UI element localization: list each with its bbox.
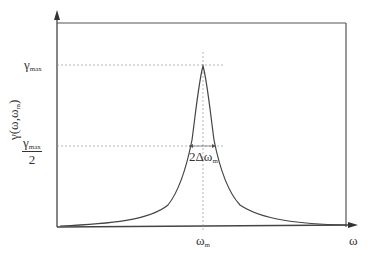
ylabel-text: γ(ω,ω [6, 110, 21, 140]
x-axis-arrow-icon [348, 222, 358, 228]
width-text: 2Δω [189, 149, 212, 164]
x-axis [57, 225, 352, 227]
y-axis-arrow-icon [54, 10, 60, 20]
peak-x-subscript: m [205, 241, 210, 249]
peak-x-symbol: ω [196, 233, 205, 248]
ymax-label: γmax [24, 58, 42, 73]
half-max-numerator: γmax [22, 135, 42, 152]
half-num-subscript: max [29, 143, 41, 151]
width-label: 2Δωm [189, 150, 218, 165]
resonance-diagram [0, 0, 375, 258]
ymax-subscript: max [30, 65, 42, 73]
peak-x-label: ωm [196, 234, 210, 249]
ylabel-close: ) [6, 100, 21, 104]
half-max-label: γmax 2 [22, 135, 42, 168]
ylabel-subscript: m [14, 104, 22, 109]
y-axis-label: γ(ω,ωm) [6, 100, 22, 140]
width-subscript: m [212, 157, 217, 165]
x-axis-label: ω [349, 234, 358, 247]
half-max-denominator: 2 [22, 152, 42, 168]
